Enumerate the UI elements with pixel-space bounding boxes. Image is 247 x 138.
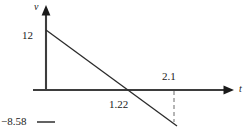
plot-canvas xyxy=(0,0,247,138)
velocity-time-graph: v t 12 −8.58 1.22 2.1 xyxy=(0,0,247,138)
v-axis-arrowhead xyxy=(42,5,51,16)
t-axis-label: t xyxy=(239,84,242,94)
velocity-line xyxy=(46,30,177,126)
v-axis-label: v xyxy=(34,2,38,12)
v-intercept-label: 12 xyxy=(22,30,33,41)
end-time-label: 2.1 xyxy=(162,71,176,82)
minimum-value-label: −8.58 xyxy=(1,116,26,127)
zero-crossing-label: 1.22 xyxy=(109,99,128,110)
t-axis-arrowhead xyxy=(224,86,235,95)
